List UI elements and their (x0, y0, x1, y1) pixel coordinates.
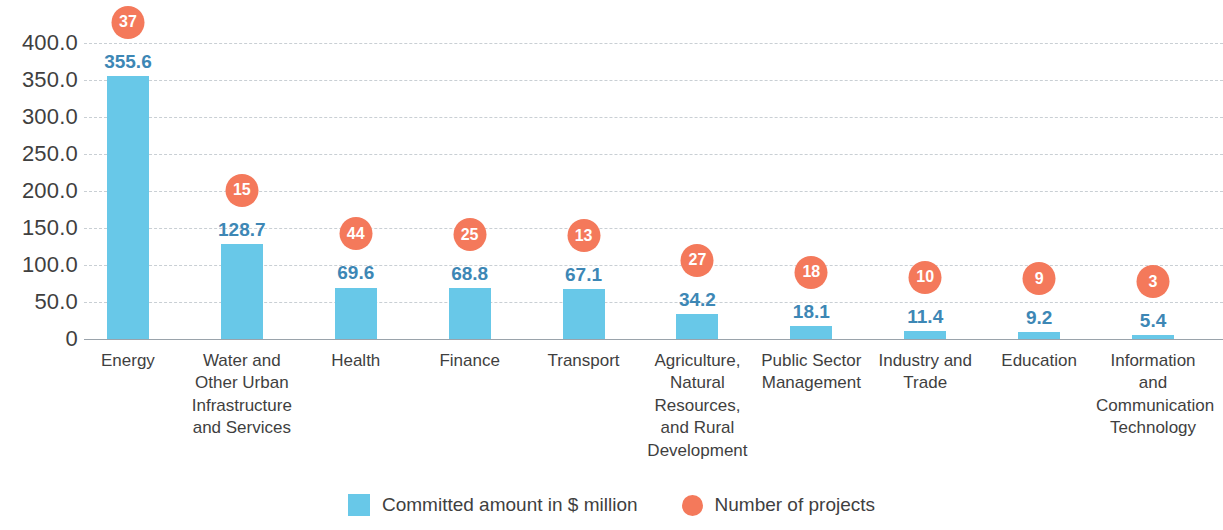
project-count-marker[interactable]: 15 (225, 174, 258, 207)
legend-item-committed-amount: Committed amount in $ million (348, 494, 638, 516)
bar[interactable] (563, 289, 605, 339)
legend-label: Number of projects (715, 494, 876, 516)
project-count-marker[interactable]: 13 (567, 219, 600, 252)
x-axis-category-label: Health (299, 350, 413, 372)
x-axis-category-label: Agriculture, Natural Resources, and Rura… (641, 350, 755, 462)
y-axis-tick-label: 100.0 (0, 254, 78, 276)
bar-value-label: 355.6 (104, 52, 152, 71)
x-axis-category-labels: EnergyWater and Other Urban Infrastructu… (84, 350, 1223, 480)
y-axis-tick-label: 200.0 (0, 180, 78, 202)
bar[interactable] (904, 331, 946, 339)
project-count-marker[interactable]: 25 (453, 218, 486, 251)
bar-chart: 050.0100.0150.0200.0250.0300.0350.0400.0… (0, 0, 1223, 530)
bar[interactable] (449, 288, 491, 339)
bar-column: 11.410 (868, 0, 982, 340)
x-axis-category-label: Finance (413, 350, 527, 372)
bar-column: 5.43 (1096, 0, 1210, 340)
x-axis-category-label: Industry and Trade (868, 350, 982, 395)
y-axis-tick-label: 350.0 (0, 69, 78, 91)
project-count-marker[interactable]: 44 (339, 217, 372, 250)
square-swatch-icon (348, 494, 370, 516)
bar-value-label: 5.4 (1140, 311, 1166, 330)
bar-value-label: 67.1 (565, 265, 602, 284)
bar[interactable] (1018, 332, 1060, 339)
bar-value-label: 69.6 (337, 263, 374, 282)
bar[interactable] (790, 326, 832, 339)
bar-column: 67.113 (527, 0, 641, 340)
project-count-marker[interactable]: 3 (1137, 265, 1170, 298)
bar-value-label: 128.7 (218, 220, 266, 239)
y-axis-tick-label: 150.0 (0, 217, 78, 239)
bar[interactable] (221, 244, 263, 339)
bar-column: 69.644 (299, 0, 413, 340)
y-axis-tick-labels: 050.0100.0150.0200.0250.0300.0350.0400.0 (0, 0, 78, 360)
x-axis-category-label: Water and Other Urban Infrastructure and… (185, 350, 299, 440)
project-count-marker[interactable]: 37 (111, 6, 144, 39)
bar-column: 9.29 (982, 0, 1096, 340)
bar[interactable] (676, 314, 718, 339)
bar-value-label: 68.8 (451, 264, 488, 283)
bar-column: 128.715 (185, 0, 299, 340)
plot-area: 355.637128.71569.64468.82567.11334.22718… (84, 0, 1223, 340)
x-axis-baseline (84, 339, 1223, 340)
y-axis-tick-label: 50.0 (0, 291, 78, 313)
x-axis-category-label: Transport (527, 350, 641, 372)
x-axis-category-label: Information and Communication Technology (1096, 350, 1210, 440)
bar-value-label: 9.2 (1026, 308, 1052, 327)
bar-value-label: 34.2 (679, 290, 716, 309)
y-axis-tick-label: 250.0 (0, 143, 78, 165)
bar-value-label: 18.1 (793, 302, 830, 321)
legend-label: Committed amount in $ million (382, 494, 638, 516)
y-axis-tick-label: 0 (0, 328, 78, 350)
bar-column: 68.825 (413, 0, 527, 340)
project-count-marker[interactable]: 10 (909, 261, 942, 294)
project-count-marker[interactable]: 18 (795, 256, 828, 289)
y-axis-tick-label: 400.0 (0, 32, 78, 54)
legend-item-number-of-projects: Number of projects (682, 494, 876, 516)
chart-legend: Committed amount in $ million Number of … (0, 494, 1223, 516)
circle-swatch-icon (682, 495, 703, 516)
bar-column: 355.637 (71, 0, 185, 340)
x-axis-category-label: Energy (71, 350, 185, 372)
bar-value-label: 11.4 (907, 307, 943, 326)
x-axis-category-label: Education (982, 350, 1096, 372)
project-count-marker[interactable]: 27 (681, 244, 714, 277)
bar[interactable] (335, 288, 377, 340)
bar-column: 34.227 (641, 0, 755, 340)
y-axis-tick-label: 300.0 (0, 106, 78, 128)
bar-column: 18.118 (754, 0, 868, 340)
bar[interactable] (107, 76, 149, 339)
project-count-marker[interactable]: 9 (1023, 262, 1056, 295)
x-axis-category-label: Public Sector Management (754, 350, 868, 395)
